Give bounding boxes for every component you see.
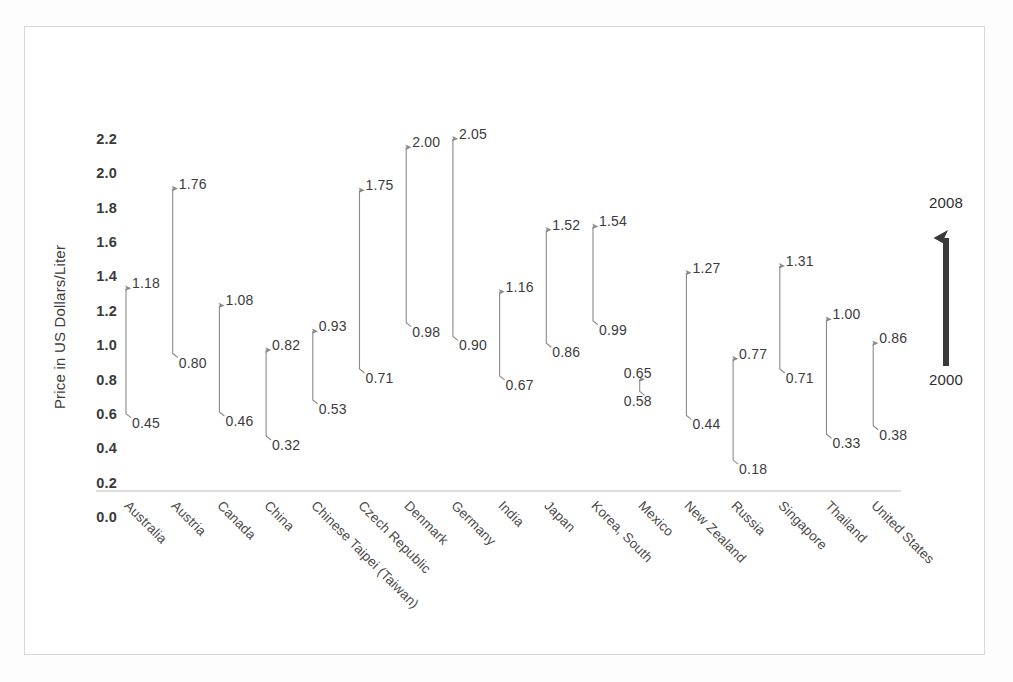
chart-frame: Price in US Dollars/Liter 0.00.20.40.60.… xyxy=(24,26,985,655)
value-label-2008: 1.08 xyxy=(225,292,253,308)
value-label-2000: 0.33 xyxy=(833,435,861,451)
value-label-2000: 0.38 xyxy=(879,427,907,443)
value-label-2000: 0.80 xyxy=(179,355,207,371)
value-label-2008: 1.31 xyxy=(786,253,814,269)
value-label-2008: 0.93 xyxy=(319,318,347,334)
value-label-2008: 1.16 xyxy=(506,279,534,295)
data-arrow xyxy=(313,331,318,404)
value-label-2008: 1.76 xyxy=(179,176,207,192)
data-arrow xyxy=(500,292,505,380)
value-label-2008: 0.77 xyxy=(739,346,767,362)
value-label-2000: 0.18 xyxy=(739,461,767,477)
value-label-2008: 1.54 xyxy=(599,213,627,229)
data-arrow xyxy=(733,359,738,464)
data-arrow xyxy=(219,305,224,416)
value-label-2000: 0.32 xyxy=(272,437,300,453)
value-label-2000: 0.45 xyxy=(132,415,160,431)
value-label-2000: 0.53 xyxy=(319,401,347,417)
legend-label-2008: 2008 xyxy=(929,194,963,211)
value-label-2008: 1.75 xyxy=(366,177,394,193)
value-label-2000: 0.86 xyxy=(552,344,580,360)
value-label-2000: 0.58 xyxy=(624,393,652,409)
value-label-2000: 0.71 xyxy=(786,370,814,386)
data-arrow xyxy=(360,190,365,373)
data-arrow xyxy=(593,226,598,325)
value-label-2008: 2.00 xyxy=(412,134,440,150)
value-label-2000: 0.46 xyxy=(225,413,253,429)
data-arrow xyxy=(827,319,832,438)
value-label-2008: 0.82 xyxy=(272,337,300,353)
data-arrow xyxy=(686,273,691,420)
value-label-2000: 0.98 xyxy=(412,324,440,340)
plot-area xyxy=(25,27,986,656)
value-label-2008: 1.18 xyxy=(132,275,160,291)
data-arrow xyxy=(780,266,785,373)
value-label-2000: 0.90 xyxy=(459,337,487,353)
data-arrow xyxy=(546,230,551,347)
data-arrow xyxy=(406,147,411,326)
value-label-2008: 1.00 xyxy=(833,306,861,322)
value-label-2008: 1.52 xyxy=(552,217,580,233)
value-label-2008: 1.27 xyxy=(692,260,720,276)
value-label-2008: 2.05 xyxy=(459,126,487,142)
value-label-2000: 0.71 xyxy=(366,370,394,386)
legend-label-2000: 2000 xyxy=(929,371,963,388)
page-canvas: Price in US Dollars/Liter 0.00.20.40.60.… xyxy=(0,0,1013,682)
data-arrow xyxy=(126,288,131,417)
value-label-2000: 0.44 xyxy=(692,416,720,432)
data-arrow xyxy=(173,189,178,358)
value-label-2000: 0.67 xyxy=(506,377,534,393)
data-arrow xyxy=(873,343,878,429)
value-label-2008: 0.65 xyxy=(624,365,652,381)
data-arrow xyxy=(453,139,458,341)
value-label-2000: 0.99 xyxy=(599,322,627,338)
value-label-2008: 0.86 xyxy=(879,330,907,346)
data-arrow xyxy=(266,350,271,440)
